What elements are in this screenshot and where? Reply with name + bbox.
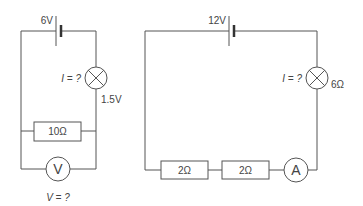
battery-icon [229, 16, 234, 46]
circuit-a: 6V I = ? 1.5V 10Ω V V = ? [21, 15, 122, 203]
battery-icon [56, 16, 61, 46]
circuit-a-wires [21, 31, 96, 169]
lamp-current-label: I = ? [282, 73, 302, 84]
lamp-voltage-label: 1.5V [101, 94, 122, 105]
circuit-diagrams: 6V I = ? 1.5V 10Ω V V = ? [0, 0, 363, 206]
circuit-b: 12V I = ? 6Ω 2Ω 2Ω A [145, 15, 345, 182]
voltmeter-symbol: V [53, 161, 63, 177]
resistor-2-label: 2Ω [239, 165, 253, 176]
resistor-label: 10Ω [48, 126, 67, 137]
lamp-current-label: I = ? [61, 73, 81, 84]
lamp-icon [306, 67, 328, 89]
resistor-1-label: 2Ω [178, 165, 192, 176]
voltmeter-question-label: V = ? [46, 192, 70, 203]
ammeter-symbol: A [291, 162, 301, 178]
lamp-icon [85, 67, 107, 89]
lamp-resistance-label: 6Ω [331, 79, 345, 90]
battery-voltage-label: 6V [41, 15, 54, 26]
circuit-b-wires [145, 31, 317, 170]
battery-voltage-label: 12V [208, 15, 226, 26]
